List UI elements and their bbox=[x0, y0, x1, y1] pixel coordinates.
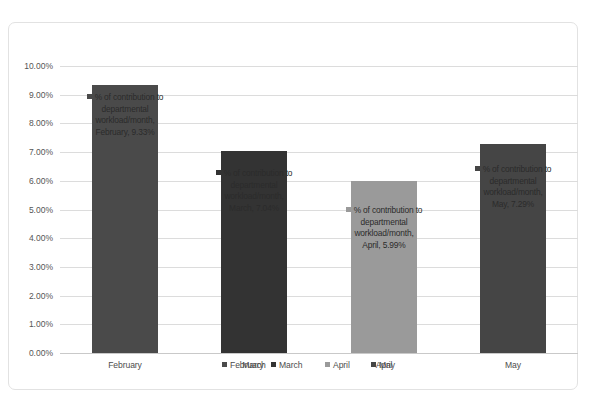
data-label-line: % of contribution to bbox=[66, 92, 184, 104]
data-label-line: workload/month, bbox=[454, 187, 572, 199]
y-axis-tick-label: 4.00% bbox=[0, 233, 53, 243]
data-label-line: % of contribution to bbox=[454, 164, 572, 176]
data-label-line: March, 7.04% bbox=[195, 203, 313, 215]
data-label-marker-icon bbox=[87, 94, 92, 99]
data-label-may: % of contribution todepartmentalworkload… bbox=[454, 164, 572, 210]
legend-entry-february[interactable]: February bbox=[222, 360, 264, 370]
data-label-line: workload/month, bbox=[325, 228, 443, 240]
legend-entry-april[interactable]: April bbox=[325, 360, 350, 370]
y-axis-tick-label: 2.00% bbox=[0, 291, 53, 301]
y-axis-tick-label: 8.00% bbox=[0, 118, 53, 128]
data-label-line: % of contribution to bbox=[195, 168, 313, 180]
data-label-marker-icon bbox=[346, 207, 351, 212]
data-label-line: departmental bbox=[454, 176, 572, 188]
legend-swatch-icon bbox=[271, 362, 276, 367]
y-axis-tick-label: 10.00% bbox=[0, 61, 53, 71]
gridline bbox=[60, 66, 578, 67]
y-axis-tick-label: 1.00% bbox=[0, 319, 53, 329]
data-label-line: departmental bbox=[66, 104, 184, 116]
chart-legend: FebruaryMarchAprilMay bbox=[0, 360, 592, 374]
data-label-april: % of contribution todepartmentalworkload… bbox=[325, 205, 443, 251]
legend-entry-may[interactable]: May bbox=[371, 360, 395, 370]
legend-swatch-icon bbox=[325, 362, 330, 367]
y-axis-tick-label: 9.00% bbox=[0, 90, 53, 100]
data-label-line: % of contribution to bbox=[325, 205, 443, 217]
data-label-marker-icon bbox=[475, 166, 480, 171]
data-label-march: % of contribution todepartmentalworkload… bbox=[195, 168, 313, 214]
y-axis-tick-label: 7.00% bbox=[0, 147, 53, 157]
data-label-line: May, 7.29% bbox=[454, 199, 572, 211]
gridline bbox=[60, 353, 578, 354]
data-label-marker-icon bbox=[216, 170, 221, 175]
data-label-line: April, 5.99% bbox=[325, 240, 443, 252]
y-axis-tick-label: 6.00% bbox=[0, 176, 53, 186]
y-axis-tick-label: 5.00% bbox=[0, 205, 53, 215]
data-label-line: workload/month, bbox=[66, 115, 184, 127]
y-axis-tick-label: 0.00% bbox=[0, 348, 53, 358]
y-axis-tick-label: 3.00% bbox=[0, 262, 53, 272]
legend-label: April bbox=[333, 360, 350, 370]
data-label-february: % of contribution todepartmentalworkload… bbox=[66, 92, 184, 138]
legend-label: February bbox=[230, 360, 264, 370]
legend-label: May bbox=[379, 360, 395, 370]
legend-swatch-icon bbox=[222, 362, 227, 367]
data-label-line: departmental bbox=[195, 180, 313, 192]
data-label-line: workload/month, bbox=[195, 191, 313, 203]
legend-swatch-icon bbox=[371, 362, 376, 367]
legend-label: March bbox=[279, 360, 302, 370]
data-label-line: departmental bbox=[325, 217, 443, 229]
data-label-line: February, 9.33% bbox=[66, 127, 184, 139]
legend-entry-march[interactable]: March bbox=[271, 360, 302, 370]
